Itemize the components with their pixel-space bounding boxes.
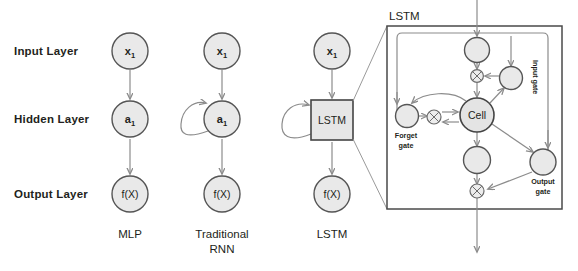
callout-line-bottom xyxy=(353,139,387,209)
column-caption-rnn-line2: RNN xyxy=(210,243,235,255)
column-caption-lstm: LSTM xyxy=(317,228,348,240)
detail-cell-to-output-gate-arrow xyxy=(492,124,533,152)
rnn-column xyxy=(181,33,240,212)
lstm-cell-box-label: LSTM xyxy=(318,114,346,126)
row-label-input-layer: Input Layer xyxy=(14,45,79,57)
detail-box-title: LSTM xyxy=(389,10,420,22)
detail-output-gate-node xyxy=(530,149,556,175)
detail-multiply-op-output xyxy=(470,184,484,198)
callout-line-top xyxy=(353,26,387,101)
detail-multiply-op-input xyxy=(471,70,484,83)
lstm-output-node-label: f(X) xyxy=(324,188,341,200)
column-caption-rnn-line1: Traditional xyxy=(195,228,248,240)
detail-input-activation-node xyxy=(465,38,490,63)
detail-forget-gate-label-line1: Forget xyxy=(395,131,418,140)
row-label-output-layer: Output Layer xyxy=(14,188,88,200)
detail-cell-label: Cell xyxy=(468,109,486,121)
detail-forget-gate-label-line2: gate xyxy=(399,141,414,150)
detail-input-gate-label: Input gate xyxy=(531,60,540,94)
detail-forget-gate-node xyxy=(396,105,419,128)
detail-output-activation-node xyxy=(464,147,491,174)
detail-output-gate-to-mul3-arrow xyxy=(488,172,532,189)
diagram-canvas: Input Layer Hidden Layer Output Layer x1… xyxy=(0,0,578,271)
lstm-architecture-diagram: Input Layer Hidden Layer Output Layer x1… xyxy=(0,0,578,271)
lstm-detail-box xyxy=(387,0,562,252)
lstm-recurrent-loop-arrow xyxy=(282,104,311,138)
detail-cell-to-input-gate-arrow xyxy=(490,88,504,103)
detail-cell-to-forget-gate-curve xyxy=(412,94,466,103)
rnn-output-node-label: f(X) xyxy=(214,188,231,200)
callout-lines xyxy=(353,26,387,209)
column-caption-mlp: MLP xyxy=(118,228,142,240)
row-label-hidden-layer: Hidden Layer xyxy=(14,113,90,125)
detail-output-gate-label-line2: gate xyxy=(536,187,551,196)
mlp-output-node-label: f(X) xyxy=(122,188,139,200)
detail-input-gate-node xyxy=(500,67,523,90)
detail-multiply-op-forget xyxy=(427,110,441,124)
detail-output-gate-label-line1: Output xyxy=(531,177,555,186)
